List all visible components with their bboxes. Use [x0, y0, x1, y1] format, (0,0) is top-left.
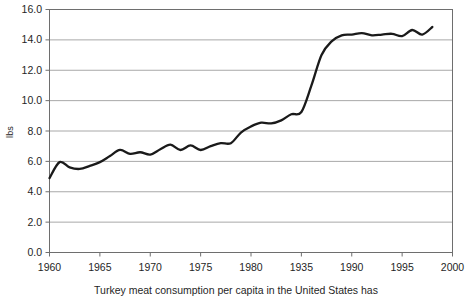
x-tick-label: 2000: [431, 261, 472, 274]
x-tick-label: 1990: [330, 261, 374, 274]
axis-ticks: [46, 10, 453, 257]
chart-caption: Turkey meat consumption per capita in th…: [0, 283, 472, 297]
x-tick-label: 1960: [28, 261, 72, 274]
x-tick-label: 1970: [128, 261, 172, 274]
plot-area: [0, 0, 472, 304]
x-tick-label: 1975: [179, 261, 223, 274]
x-tick-label: 1980: [229, 261, 273, 274]
gridlines: [50, 40, 453, 222]
x-tick-label: 1935: [279, 261, 323, 274]
chart-figure: lbs 16.014.012.010.08.06.04.02.00.0 1960…: [0, 0, 472, 304]
x-tick-label: 1965: [78, 261, 122, 274]
x-tick-label: 1995: [380, 261, 424, 274]
data-series: [50, 27, 433, 178]
x-axis-tick-labels: 196019651970197519801935199019952000: [0, 261, 472, 277]
series-line-0: [50, 27, 433, 178]
